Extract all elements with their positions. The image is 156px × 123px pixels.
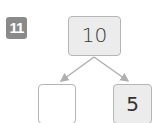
whole-box: 10 <box>68 16 121 56</box>
arrow-left <box>61 57 94 81</box>
part-box-left-empty[interactable] <box>38 84 76 123</box>
part-box-right: 5 <box>113 84 152 123</box>
arrow-right <box>94 57 128 81</box>
